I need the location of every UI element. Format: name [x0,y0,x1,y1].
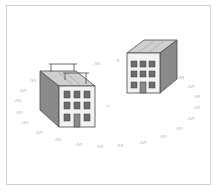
buildings-illustration [0,0,219,194]
left-building [40,64,95,127]
left-building-door [74,114,80,127]
right-building [127,40,177,93]
right-building-door [140,82,146,93]
